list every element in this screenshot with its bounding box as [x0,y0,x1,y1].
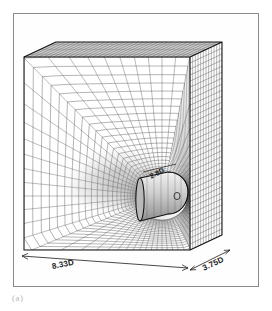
dimension-line-length [22,256,188,268]
mesh-top-face [24,42,222,57]
figure-container: 8.33D 3.75D 2.8D (a) [0,0,272,311]
cylinder-front-cap [136,178,144,221]
figure-caption: (a) [12,293,24,303]
mesh-side-face [190,42,222,250]
mesh-front-face [24,57,192,250]
mesh-diagram [0,0,272,311]
